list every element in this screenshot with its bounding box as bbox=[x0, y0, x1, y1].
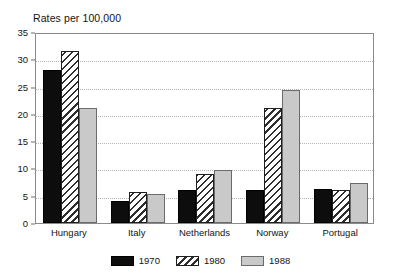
bar-italy-1970 bbox=[111, 201, 129, 223]
y-axis-tick-label-5: 5 bbox=[23, 192, 28, 202]
legend-swatch-1988 bbox=[241, 256, 264, 266]
y-axis-tick-label-35: 35 bbox=[17, 28, 28, 38]
bar-group-hungary bbox=[36, 34, 104, 223]
x-axis: HungaryItalyNetherlandsNorwayPortugal bbox=[35, 226, 374, 242]
chart-legend: 197019801988 bbox=[0, 255, 401, 266]
y-axis-tick-label-20: 20 bbox=[17, 110, 28, 120]
bar-norway-1970 bbox=[246, 190, 264, 223]
bar-group-portugal bbox=[307, 34, 375, 223]
x-axis-label-portugal: Portugal bbox=[322, 226, 357, 240]
legend-swatch-1980 bbox=[176, 256, 199, 266]
bar-hungary-1988 bbox=[79, 108, 97, 223]
bar-netherlands-1970 bbox=[178, 190, 196, 223]
bar-group-norway bbox=[239, 34, 307, 223]
x-axis-label-norway: Norway bbox=[256, 226, 288, 240]
bar-italy-1980 bbox=[129, 192, 147, 223]
bar-hungary-1970 bbox=[43, 70, 61, 223]
y-axis-tick-label-30: 30 bbox=[17, 55, 28, 65]
legend-swatch-1970 bbox=[111, 256, 134, 266]
plot-inner bbox=[36, 34, 373, 223]
plot-area bbox=[35, 33, 374, 224]
bar-hungary-1980 bbox=[61, 51, 79, 223]
x-axis-label-italy: Italy bbox=[128, 226, 145, 240]
bar-portugal-1988 bbox=[350, 183, 368, 223]
x-axis-label-hungary: Hungary bbox=[51, 226, 87, 240]
legend-item-1970: 1970 bbox=[111, 255, 160, 266]
bar-group-italy bbox=[104, 34, 172, 223]
y-axis-tick-label-10: 10 bbox=[17, 164, 28, 174]
bar-chart-figure: Rates per 100,000 05101520253035 Hungary… bbox=[0, 0, 401, 278]
legend-item-1988: 1988 bbox=[241, 255, 290, 266]
chart-title: Rates per 100,000 bbox=[33, 12, 121, 25]
bar-netherlands-1980 bbox=[196, 174, 214, 223]
bar-portugal-1970 bbox=[314, 189, 332, 223]
x-axis-label-netherlands: Netherlands bbox=[179, 226, 230, 240]
bar-group-netherlands bbox=[172, 34, 240, 223]
y-axis-tick-label-25: 25 bbox=[17, 83, 28, 93]
legend-label-1970: 1970 bbox=[139, 255, 160, 266]
bar-norway-1980 bbox=[264, 108, 282, 223]
legend-label-1988: 1988 bbox=[269, 255, 290, 266]
y-axis-tick-label-15: 15 bbox=[17, 137, 28, 147]
bar-italy-1988 bbox=[147, 194, 165, 223]
bar-netherlands-1988 bbox=[214, 170, 232, 223]
bar-portugal-1980 bbox=[332, 190, 350, 223]
legend-item-1980: 1980 bbox=[176, 255, 225, 266]
y-axis: 05101520253035 bbox=[0, 33, 35, 224]
y-axis-tick-label-0: 0 bbox=[23, 219, 28, 229]
bar-norway-1988 bbox=[282, 90, 300, 223]
legend-label-1980: 1980 bbox=[204, 255, 225, 266]
